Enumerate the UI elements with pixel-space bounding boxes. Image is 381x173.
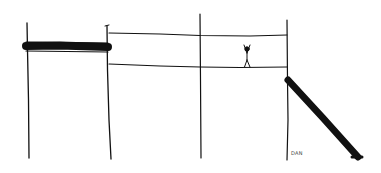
- slide: [288, 80, 358, 157]
- band-top-line: [109, 33, 287, 36]
- thick-bar-edge: [26, 51, 108, 52]
- pole-4: [287, 20, 288, 160]
- sketch-drawing: [0, 0, 381, 173]
- stick-figure: [244, 45, 250, 67]
- artist-signature: DAN: [291, 150, 303, 156]
- band-bottom-line: [109, 64, 287, 68]
- thick-bar: [26, 46, 108, 48]
- pole-2-tick: [105, 25, 109, 26]
